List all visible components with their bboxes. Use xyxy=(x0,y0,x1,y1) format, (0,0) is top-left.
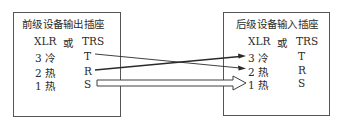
wire-s-to-1-hot-block-arrow xyxy=(97,76,246,90)
wiring-diagram xyxy=(0,0,337,127)
arrowhead-icon xyxy=(238,53,246,58)
arrowhead-icon xyxy=(238,66,246,71)
